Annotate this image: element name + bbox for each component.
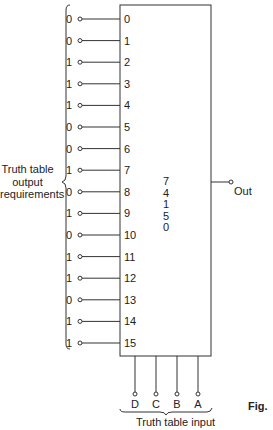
left-label-line-2: output [0, 176, 55, 189]
pin-number: 6 [124, 143, 130, 155]
left-label-line-3: requirements [0, 188, 55, 201]
pin-number: 5 [124, 121, 130, 133]
input-value: 1 [62, 315, 72, 327]
bottom-brace-label: Truth table input [136, 416, 215, 428]
select-label-d: D [130, 398, 140, 410]
pin-number: 2 [124, 56, 130, 68]
input-value: 0 [62, 229, 72, 241]
select-label-c: C [151, 398, 161, 410]
pin-number: 9 [124, 207, 130, 219]
input-value: 1 [62, 337, 72, 349]
chip-label-char: 0 [161, 222, 171, 234]
chip-label: 7 4 1 5 0 [161, 176, 171, 234]
data-input-lines [78, 17, 120, 345]
pin-number: 7 [124, 164, 130, 176]
pin-number: 14 [124, 315, 136, 327]
figure-label: Fig. [248, 400, 268, 412]
input-value: 1 [62, 207, 72, 219]
select-label-a: A [193, 398, 203, 410]
input-value: 0 [62, 13, 72, 25]
input-value: 0 [62, 35, 72, 47]
left-label-line-1: Truth table [0, 163, 55, 176]
pin-number: 1 [124, 35, 130, 47]
left-brace-label: Truth table output requirements [0, 163, 55, 201]
mux-schematic [0, 0, 273, 430]
input-value: 1 [62, 99, 72, 111]
pin-number: 0 [124, 13, 130, 25]
pin-number: 12 [124, 272, 136, 284]
input-value: 0 [62, 143, 72, 155]
pin-number: 8 [124, 186, 130, 198]
pin-number: 10 [124, 229, 136, 241]
input-value: 1 [62, 78, 72, 90]
select-label-b: B [172, 398, 182, 410]
output-label: Out [234, 185, 252, 197]
chip-label-char: 7 [161, 176, 171, 188]
chip-label-char: 1 [161, 199, 171, 211]
input-value: 1 [62, 164, 72, 176]
output-terminal [229, 180, 233, 184]
select-lines [133, 356, 200, 396]
pin-number: 11 [124, 251, 135, 263]
input-value: 0 [62, 121, 72, 133]
input-value: 0 [62, 294, 72, 306]
input-value: 1 [62, 251, 72, 263]
pin-number: 15 [124, 337, 136, 349]
input-value: 1 [62, 272, 72, 284]
input-value: 1 [62, 56, 72, 68]
pin-number: 4 [124, 99, 130, 111]
pin-number: 13 [124, 294, 136, 306]
pin-number: 3 [124, 78, 130, 90]
